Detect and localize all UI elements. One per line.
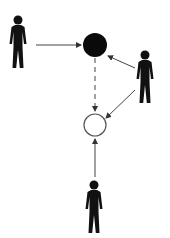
arrow-right-to-hollow <box>106 90 135 118</box>
person-icon-bottom <box>86 181 103 234</box>
actor-flow-diagram <box>0 0 170 238</box>
hollow-node <box>84 114 106 136</box>
arrow-right-to-filled <box>108 56 135 68</box>
person-icon-right <box>137 51 154 104</box>
person-icon-left <box>10 16 27 69</box>
filled-node <box>83 33 107 57</box>
